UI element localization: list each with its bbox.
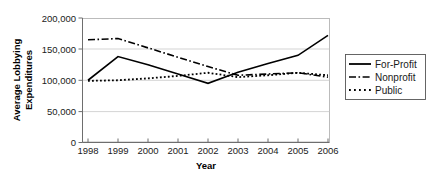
x-tick-label-2001: 2001 [167, 145, 188, 156]
y-axis-title-line1: Average Lobbying [11, 39, 22, 122]
series-line-for-profit [88, 35, 328, 83]
y-tick-label-200000: 200,000 [42, 13, 76, 24]
x-tick-label-2005: 2005 [287, 145, 308, 156]
legend[interactable]: For-Profit Nonprofit Public [346, 55, 426, 100]
chart-canvas: 200,000 150,000 100,000 50,000 0 Average… [0, 0, 430, 178]
x-axis-title: Year [196, 160, 216, 171]
x-tick-label-2006: 2006 [317, 145, 338, 156]
legend-label-nonprofit: Nonprofit [375, 72, 416, 83]
lobbying-expenditures-line-chart: 200,000 150,000 100,000 50,000 0 Average… [0, 0, 430, 178]
x-tick-labels: 1998 1999 2000 2001 2002 2003 2004 2005 … [77, 145, 338, 156]
legend-label-for-profit: For-Profit [375, 59, 417, 70]
x-tick-label-2004: 2004 [257, 145, 278, 156]
y-tick-label-150000: 150,000 [42, 44, 76, 55]
y-tick-label-100000: 100,000 [42, 75, 76, 86]
y-tick-label-50000: 50,000 [47, 106, 76, 117]
x-tick-label-2002: 2002 [197, 145, 218, 156]
y-tick-labels: 200,000 150,000 100,000 50,000 0 [42, 13, 76, 149]
series-line-public [88, 73, 328, 81]
y-axis-title-line2: Expenditures [23, 50, 34, 110]
gridlines [83, 49, 330, 112]
legend-label-public: Public [375, 85, 402, 96]
x-tick-label-2003: 2003 [227, 145, 248, 156]
x-tick-label-1998: 1998 [77, 145, 98, 156]
data-series-group [88, 35, 328, 83]
y-axis [79, 18, 83, 143]
x-tick-label-2000: 2000 [137, 145, 158, 156]
x-tick-label-1999: 1999 [107, 145, 128, 156]
y-axis-title: Average Lobbying Expenditures [11, 39, 34, 122]
y-tick-label-0: 0 [71, 137, 76, 148]
